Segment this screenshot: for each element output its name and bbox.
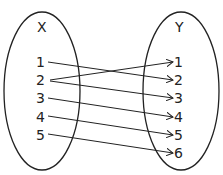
set-x-label: X [37, 19, 47, 35]
y-element: 5 [174, 127, 183, 143]
arrow-2-to-3 [50, 81, 173, 98]
x-element: 3 [36, 90, 45, 106]
x-element: 4 [36, 109, 45, 125]
arrow-3-to-4 [48, 98, 173, 117]
mapping-diagram: X Y 1 2 3 4 5 1 2 3 4 5 6 [0, 0, 223, 175]
x-element: 5 [36, 127, 45, 143]
arrow-4-to-5 [48, 116, 173, 135]
y-element: 3 [174, 90, 183, 106]
set-y-label: Y [174, 19, 184, 35]
y-element: 1 [174, 54, 183, 70]
y-element: 2 [174, 72, 183, 88]
y-element: 6 [174, 145, 183, 161]
x-element: 1 [36, 54, 45, 70]
x-element: 2 [36, 72, 45, 88]
y-element: 4 [174, 109, 183, 125]
